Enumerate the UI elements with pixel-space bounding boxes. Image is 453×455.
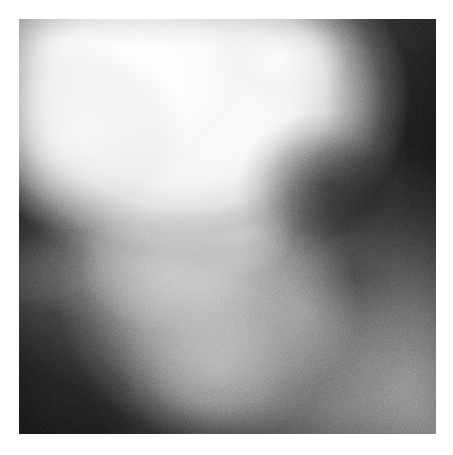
region-central-gray-mass [19,19,436,434]
radiograph-plate[interactable] [19,19,436,434]
film-grain-coarse [19,19,436,434]
region-bright-upper-mass-core [19,19,436,434]
region-dark-cleft [19,19,436,434]
region-dark-lower-left-field [19,19,436,434]
region-bright-upper-mass [19,19,436,434]
region-isthmus-highlight [19,19,436,434]
film-grain-fine [19,19,436,434]
region-lower-tapering-lobe [19,19,436,434]
region-lower-right-mottle [19,19,436,434]
region-bright-left-lobe [19,19,436,434]
region-right-gray-finger [19,19,436,434]
plate-vignette [19,19,436,434]
region-gray-lower-right-field [19,19,436,434]
region-dark-left-wedge [19,19,436,434]
region-bright-right-spur [19,19,436,434]
region-dark-right-field [19,19,436,434]
figure-page [0,0,453,455]
tone-base-field [19,19,436,434]
region-dark-right-notch [19,19,436,434]
paper-bottom-margin [0,434,453,455]
region-central-gray-mass-core [19,19,436,434]
